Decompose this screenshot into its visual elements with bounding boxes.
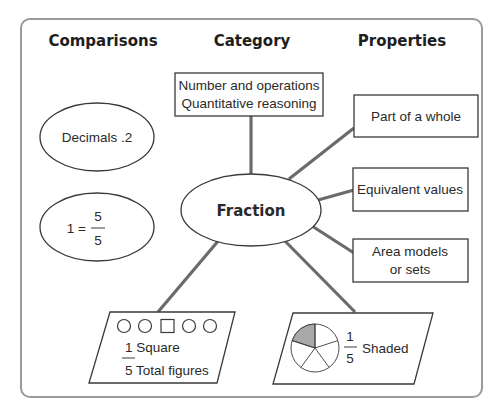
fraction-concept-map: Comparisons Category Properties Number a… — [0, 0, 504, 416]
category-line-1: Number and operations — [178, 78, 319, 93]
property-area-models-line-1: Area models — [372, 244, 448, 259]
comparison-decimals-label: Decimals .2 — [62, 130, 133, 145]
area-model-numerator: 1 — [346, 329, 354, 344]
header-comparisons: Comparisons — [48, 32, 157, 50]
comparison-whole-denominator: 5 — [94, 233, 102, 248]
comparison-whole-prefix: 1 = — [67, 221, 86, 236]
pie-chart-icon — [291, 324, 339, 372]
connector-part-of-whole — [289, 128, 354, 179]
property-part-of-whole-label: Part of a whole — [371, 109, 461, 124]
area-model-label: Shaded — [362, 341, 409, 356]
area-model-denominator: 5 — [346, 351, 354, 366]
connector-equivalent-values — [318, 190, 354, 200]
connector-area-models — [312, 226, 354, 253]
property-equivalent-values-label: Equivalent values — [357, 182, 463, 197]
category-line-2: Quantitative reasoning — [181, 96, 316, 111]
set-model-denominator: 5 Total figures — [125, 363, 209, 378]
property-area-models-line-2: or sets — [390, 262, 431, 277]
header-properties: Properties — [358, 32, 446, 50]
fraction-label: Fraction — [217, 202, 286, 220]
header-category: Category — [214, 32, 291, 50]
comparison-whole-numerator: 5 — [94, 209, 102, 224]
connector-area-example — [284, 240, 355, 312]
set-model-numerator: 1 Square — [125, 340, 180, 355]
connector-set-model — [158, 240, 219, 312]
comparison-whole — [40, 193, 154, 261]
